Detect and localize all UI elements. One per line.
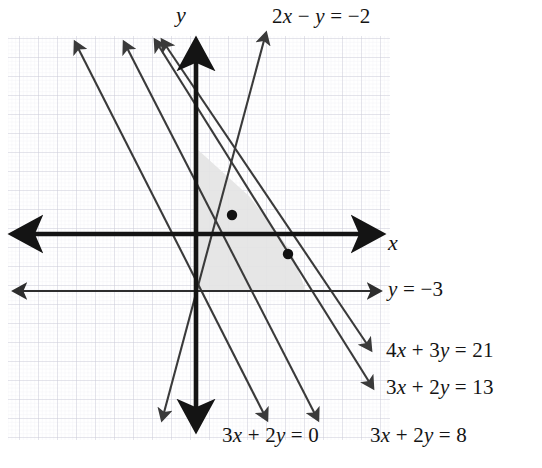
figure-canvas: 2x − y = −2 y = −3 4x + 3y = 21 3x + 2y … — [0, 0, 542, 468]
label-4x-plus-3y-equals-21: 4x + 3y = 21 — [386, 338, 494, 363]
y-axis-label: y — [176, 2, 186, 28]
label-2x-minus-y-equals-minus-2: 2x − y = −2 — [272, 4, 370, 29]
x-axis-label: x — [388, 230, 398, 256]
label-3x-plus-2y-equals-8: 3x + 2y = 8 — [370, 423, 467, 448]
vertex-point-a — [227, 210, 237, 220]
vertex-point-b — [283, 249, 293, 259]
label-y-equals-minus-3: y = −3 — [388, 277, 443, 302]
label-3x-plus-2y-equals-0: 3x + 2y = 0 — [222, 423, 319, 448]
label-3x-plus-2y-equals-13: 3x + 2y = 13 — [386, 375, 494, 400]
